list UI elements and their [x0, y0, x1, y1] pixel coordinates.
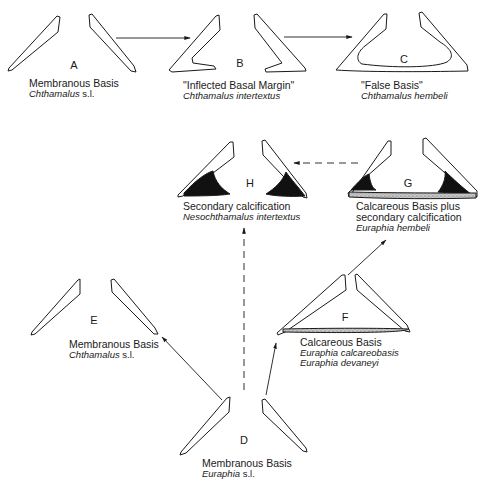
caption-d-species: Euraphia s.l. — [202, 469, 292, 479]
node-letter-h: H — [246, 177, 254, 189]
arrow-d-to-e — [162, 337, 222, 400]
caption-a-species: Chthamalus s.l. — [29, 89, 119, 99]
node-letter-c: C — [400, 53, 408, 65]
arrow-f-to-g — [348, 240, 386, 275]
arrow-d-to-f — [266, 343, 276, 395]
caption-a: Membranous Basis Chthamalus s.l. — [29, 78, 119, 99]
node-letter-g: G — [404, 177, 413, 189]
caption-h: Secondary calcification Nesochthamalus i… — [183, 201, 300, 222]
node-letter-e: E — [90, 314, 97, 326]
plate-pair-e — [31, 279, 158, 335]
plate-pair-d — [180, 397, 307, 455]
caption-c-species: Chthamalus hembeli — [361, 91, 448, 101]
caption-g: Calcareous Basis plus secondary calcific… — [356, 201, 462, 233]
caption-f: Calcareous Basis Euraphia calcareobasis … — [300, 337, 399, 368]
caption-e: Membranous Basis Chthamalus s.l. — [69, 339, 159, 360]
caption-b-species: Chthamalus intertextus — [183, 91, 294, 101]
plate-pair-f — [277, 274, 410, 335]
caption-d: Membranous Basis Euraphia s.l. — [202, 458, 292, 479]
caption-b: "Inflected Basal Margin" Chthamalus inte… — [183, 80, 294, 101]
node-letter-f: F — [342, 311, 349, 323]
plate-pair-g — [348, 138, 477, 199]
caption-c: "False Basis" Chthamalus hembeli — [361, 80, 448, 101]
basis-evolution-diagram — [0, 0, 482, 482]
caption-f-species-2: Euraphia devaneyi — [300, 358, 399, 368]
caption-g-species: Euraphia hembeli — [356, 223, 462, 233]
node-letter-b: B — [236, 57, 243, 69]
node-letter-a: A — [70, 59, 77, 71]
caption-h-species: Nesochthamalus intertextus — [183, 212, 300, 222]
plate-pair-h — [178, 140, 307, 198]
caption-e-species: Chthamalus s.l. — [69, 350, 159, 360]
node-letter-d: D — [240, 434, 248, 446]
